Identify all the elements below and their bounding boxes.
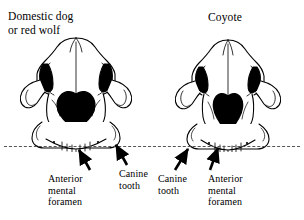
skull-comparison-figure: Domestic dog or red wolf Coyote: [0, 0, 304, 220]
arrow-dog-anterior-mental-foramen: [79, 150, 90, 170]
label-leader-arrows: [0, 0, 304, 220]
arrow-coyote-canine-tooth: [175, 149, 188, 170]
label-domestic-dog-canine-tooth: Canine tooth: [119, 168, 148, 191]
label-coyote-canine-tooth: Canine tooth: [158, 173, 187, 196]
label-domestic-dog-anterior-mental-foramen: Anterior mental foramen: [48, 173, 83, 208]
arrow-dog-canine-tooth: [116, 145, 127, 165]
label-coyote-anterior-mental-foramen: Anterior mental foramen: [208, 173, 243, 208]
arrow-coyote-anterior-mental-foramen: [210, 148, 218, 170]
